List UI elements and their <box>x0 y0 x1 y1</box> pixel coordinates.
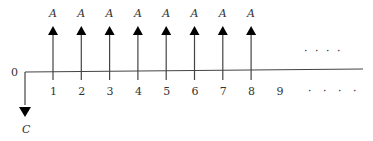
period-label-7: 7 <box>220 85 227 98</box>
period-label-9: 9 <box>276 85 283 98</box>
continuation-dots-upper: · · · · <box>304 45 342 58</box>
period-label-5: 5 <box>163 85 170 98</box>
outflow-label: C <box>22 123 31 136</box>
inflow-arrow-6 <box>190 26 200 80</box>
inflow-label-6: A <box>190 7 199 20</box>
inflow-label-3: A <box>105 7 114 20</box>
inflow-arrow-8 <box>246 26 256 80</box>
inflow-label-8: A <box>246 7 255 20</box>
origin-label: 0 <box>11 66 18 79</box>
period-label-2: 2 <box>78 85 85 98</box>
inflow-label-1: A <box>48 7 57 20</box>
period-label-8: 8 <box>248 85 255 98</box>
inflow-arrow-5 <box>161 26 171 80</box>
inflow-label-2: A <box>76 7 85 20</box>
inflow-label-5: A <box>161 7 170 20</box>
continuation-dots-lower: · · · · <box>308 85 360 98</box>
inflow-arrow-4 <box>133 26 143 80</box>
period-label-6: 6 <box>192 85 199 98</box>
cash-flow-diagram: 0 C 123456789 AAAAAAAA · · · · · · · · <box>0 0 373 141</box>
inflow-arrow-7 <box>218 26 228 80</box>
outflow-arrow <box>19 72 31 117</box>
period-label-3: 3 <box>107 85 114 98</box>
period-label-1: 1 <box>50 85 57 98</box>
inflow-label-4: A <box>133 7 142 20</box>
inflow-arrow-3 <box>105 26 115 80</box>
period-label-4: 4 <box>135 85 142 98</box>
inflow-label-7: A <box>218 7 227 20</box>
